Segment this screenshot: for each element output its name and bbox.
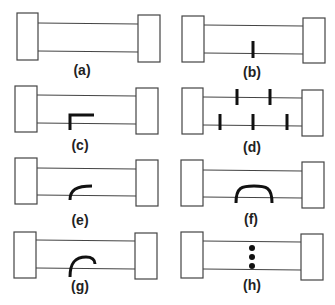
right-block xyxy=(135,233,157,279)
left-block xyxy=(17,13,38,60)
l-shaped-mark xyxy=(70,115,94,130)
panel-label: (b) xyxy=(243,64,261,80)
left-block xyxy=(15,158,37,204)
upper-rail xyxy=(37,95,136,96)
panel-b: (b) xyxy=(182,16,325,80)
lower-rail xyxy=(36,268,135,269)
lower-rail xyxy=(37,195,136,196)
right-block xyxy=(138,15,160,62)
left-block xyxy=(181,160,203,206)
left-block xyxy=(182,88,203,134)
upper-rail xyxy=(203,241,301,242)
lower-rail xyxy=(38,51,138,52)
panel-h: (h) xyxy=(181,232,323,293)
lower-rail xyxy=(203,269,301,270)
upper-rail xyxy=(203,170,302,171)
panel-g: (g) xyxy=(14,232,157,294)
panel-label: (h) xyxy=(243,277,261,293)
curved-hook-mark xyxy=(70,186,92,200)
left-block xyxy=(14,232,36,278)
panel-label: (f) xyxy=(244,211,258,227)
upper-rail xyxy=(203,97,302,98)
lower-rail xyxy=(37,123,136,124)
panel-e: (e) xyxy=(15,158,158,228)
panel-label: (c) xyxy=(71,137,88,153)
panel-d: (d) xyxy=(182,88,323,155)
dot-mark xyxy=(249,245,255,251)
defect-diagram: (a) (b) (c) (d) (e) xyxy=(0,0,335,305)
right-block xyxy=(136,160,158,206)
left-block xyxy=(181,232,203,278)
upper-rail xyxy=(204,25,303,26)
panel-c: (c) xyxy=(15,86,158,153)
panel-label: (e) xyxy=(71,212,88,228)
right-block xyxy=(136,88,158,134)
right-block xyxy=(301,234,323,280)
curved-hook-mark xyxy=(70,257,95,277)
right-block xyxy=(302,90,323,136)
right-block xyxy=(303,18,325,63)
left-block xyxy=(15,86,37,132)
upper-rail xyxy=(37,168,136,169)
left-block xyxy=(182,16,204,62)
dot-mark xyxy=(249,263,255,269)
upper-rail xyxy=(38,23,138,24)
upper-rail xyxy=(36,240,135,241)
dot-mark xyxy=(249,254,255,260)
panel-a: (a) xyxy=(17,13,160,78)
arch-mark xyxy=(236,186,272,203)
panel-f: (f) xyxy=(181,160,324,227)
panel-label: (a) xyxy=(73,62,90,78)
panel-label: (d) xyxy=(243,139,261,155)
right-block xyxy=(302,162,324,208)
lower-rail xyxy=(203,197,302,198)
panel-label: (g) xyxy=(71,278,89,294)
